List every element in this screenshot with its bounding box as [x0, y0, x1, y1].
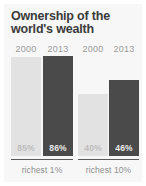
- bar-richest1-2000: 85%: [11, 57, 41, 156]
- bar-richest10-2000: 40%: [78, 94, 108, 156]
- bar-value-richest10-2013: 46%: [109, 143, 139, 153]
- bar-richest10-2013: 46%: [109, 80, 139, 156]
- bar-richest1-2013: 86%: [43, 56, 73, 156]
- group-rule-richest10: [78, 159, 139, 161]
- chart-card: Ownership of the world's wealth 2000 201…: [4, 4, 142, 182]
- category-label-richest10: richest 10%: [78, 165, 139, 175]
- bar-value-richest1-2013: 86%: [43, 143, 73, 153]
- category-label-richest1: richest 1%: [11, 165, 73, 175]
- bar-value-richest1-2000: 85%: [11, 143, 41, 153]
- plot-area: 85% 86% 40% 46% richest 1% richest 10%: [4, 4, 142, 182]
- group-rule-richest1: [11, 159, 73, 161]
- bar-value-richest10-2000: 40%: [78, 143, 108, 153]
